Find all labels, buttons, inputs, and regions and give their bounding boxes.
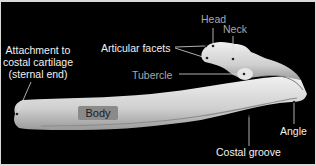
leader-line-articular-facet-2 [175, 48, 206, 58]
label-body: Body [78, 106, 118, 120]
label-attachment-line3: (sternal end) [3, 68, 73, 80]
label-articular-facets: Articular facets [101, 42, 170, 54]
leader-line-articular-facet-1 [175, 46, 205, 47]
label-costal-groove: Costal groove [216, 146, 281, 158]
label-attachment-line1: Attachment to [3, 44, 73, 56]
label-angle: Angle [280, 125, 307, 137]
label-attachment-line2: costal cartilage [3, 56, 73, 68]
rib-diagram-panel: Attachment to costal cartilage (sternal … [1, 2, 315, 164]
label-neck: Neck [223, 23, 247, 35]
rib-bone-illustration [1, 2, 315, 164]
label-tubercle: Tubercle [132, 69, 172, 81]
label-attachment: Attachment to costal cartilage (sternal … [3, 44, 73, 80]
